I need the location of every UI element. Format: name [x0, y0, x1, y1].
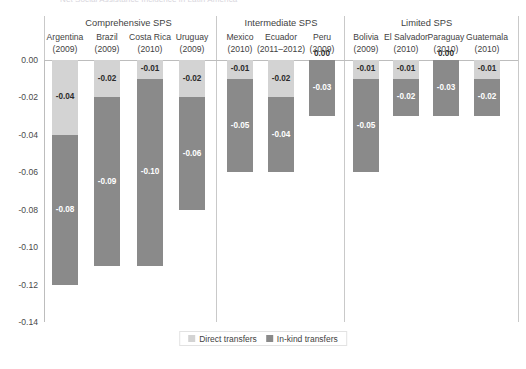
bar-value-label-direct-transfers: -0.01	[141, 64, 160, 74]
bar-guatemala[interactable]: -0.01-0.02	[474, 60, 500, 116]
bar-value-label-in-kind-transfers: -0.03	[313, 83, 332, 93]
bar-value-label-direct-transfers: -0.02	[98, 74, 117, 84]
legend-item-in-kind-transfers[interactable]: In-kind transfers	[266, 334, 338, 344]
bar-value-label-direct-transfers: -0.01	[397, 64, 416, 74]
chart-legend: Direct transfersIn-kind transfers	[179, 331, 347, 346]
bar-value-label-direct-transfers: 0.00	[314, 49, 330, 59]
y-tick-label: -0.12	[0, 280, 38, 290]
legend-label: In-kind transfers	[277, 334, 338, 344]
legend-swatch-icon	[266, 335, 273, 342]
bar-ecuador[interactable]: -0.02-0.04	[268, 60, 294, 172]
bar-value-label-in-kind-transfers: -0.03	[437, 83, 456, 93]
bar-costa-rica[interactable]: -0.01-0.10	[137, 60, 163, 266]
bar-uruguay[interactable]: -0.02-0.06	[179, 60, 205, 210]
y-tick-label: -0.10	[0, 242, 38, 252]
bar-value-label-in-kind-transfers: -0.10	[141, 167, 160, 177]
bar-el-salvador[interactable]: -0.01-0.02	[393, 60, 419, 116]
legend-item-direct-transfers[interactable]: Direct transfers	[188, 334, 257, 344]
bar-value-label-in-kind-transfers: -0.08	[56, 205, 75, 215]
category-year: (2010)	[456, 43, 518, 55]
bar-mexico[interactable]: -0.01-0.05	[227, 60, 253, 172]
y-tick-label: -0.14	[0, 317, 38, 327]
bar-value-label-direct-transfers: -0.01	[231, 64, 250, 74]
bar-value-label-direct-transfers: -0.02	[183, 74, 202, 84]
category-header-guatemala: Guatemala(2010)	[456, 31, 518, 57]
group-separator-3	[518, 16, 519, 322]
bar-value-label-in-kind-transfers: -0.09	[98, 177, 117, 187]
bar-value-label-in-kind-transfers: -0.05	[357, 121, 376, 131]
group-header-label: Limited SPS	[306, 16, 526, 30]
bar-bolivia[interactable]: -0.01-0.05	[353, 60, 379, 172]
legend-swatch-icon	[188, 335, 195, 342]
bar-paraguay[interactable]: 0.00-0.03	[433, 60, 459, 116]
bar-value-label-in-kind-transfers: -0.05	[231, 121, 250, 131]
group-header-limited-sps: Limited SPS	[306, 16, 526, 30]
bar-value-label-direct-transfers: 0.00	[438, 49, 454, 59]
y-tick-label: -0.02	[0, 92, 38, 102]
chart-title-text: Net Social Assistance Incidence in Latin…	[60, 0, 390, 4]
bar-peru[interactable]: 0.00-0.03	[309, 60, 335, 116]
stacked-bar-chart: Net Social Assistance Incidence in Latin…	[0, 0, 526, 369]
category-name: Guatemala	[456, 31, 518, 43]
chart-title-clipped: Net Social Assistance Incidence in Latin…	[60, 0, 390, 9]
y-axis-line	[44, 60, 45, 322]
bar-value-label-in-kind-transfers: -0.02	[478, 92, 497, 102]
legend-label: Direct transfers	[199, 334, 257, 344]
y-tick-label: -0.06	[0, 167, 38, 177]
bar-brazil[interactable]: -0.02-0.09	[94, 60, 120, 266]
bar-value-label-direct-transfers: -0.01	[478, 64, 497, 74]
bar-value-label-direct-transfers: -0.01	[357, 64, 376, 74]
y-tick-label: 0.00	[0, 55, 38, 65]
bar-argentina[interactable]: -0.04-0.08	[52, 60, 78, 285]
y-tick-label: -0.04	[0, 130, 38, 140]
bar-value-label-direct-transfers: -0.02	[272, 74, 291, 84]
bar-value-label-direct-transfers: -0.04	[56, 92, 75, 102]
bar-value-label-in-kind-transfers: -0.04	[272, 130, 291, 140]
bar-value-label-in-kind-transfers: -0.02	[397, 92, 416, 102]
bar-value-label-in-kind-transfers: -0.06	[183, 149, 202, 159]
y-tick-label: -0.08	[0, 205, 38, 215]
plot-area: 0.00-0.02-0.04-0.06-0.08-0.10-0.12-0.14 …	[44, 60, 518, 322]
